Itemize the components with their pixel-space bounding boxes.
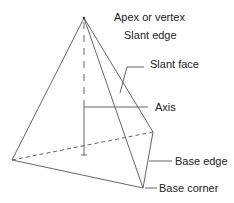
label-axis: Axis	[155, 101, 176, 113]
label-slant-face: Slant face	[150, 58, 199, 70]
pyramid-diagram	[0, 0, 234, 203]
left-slant-edge	[12, 18, 84, 160]
front-slant-edge	[84, 18, 143, 188]
right-base-edge	[143, 132, 153, 188]
label-base-edge: Base edge	[175, 155, 228, 167]
label-base-corner: Base corner	[159, 182, 218, 194]
label-apex: Apex or vertex	[114, 11, 185, 23]
slant-face-leader	[120, 67, 144, 93]
front-base-edge	[12, 160, 143, 188]
apex-point	[83, 17, 85, 19]
label-slant-edge: Slant edge	[124, 29, 177, 41]
